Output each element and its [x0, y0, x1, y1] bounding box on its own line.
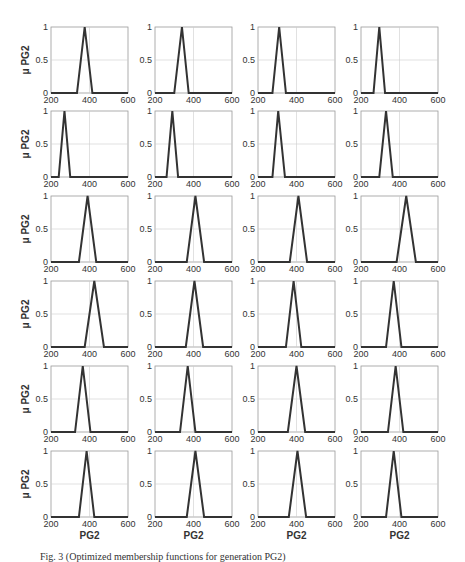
y-tick-label: 0.5: [242, 55, 255, 65]
x-tick-label: 400: [82, 179, 97, 189]
x-tick-label: 600: [120, 349, 135, 359]
y-tick-label: 1: [43, 276, 48, 286]
y-tick-label: 0.5: [345, 139, 358, 149]
figure-caption: Fig. 3 (Optimized membership functions f…: [40, 551, 286, 562]
x-tick-label: 600: [224, 434, 239, 444]
y-tick-label: 0.5: [242, 224, 255, 234]
x-tick-label: 200: [43, 434, 58, 444]
y-tick-label: 1: [43, 191, 48, 201]
y-tick-label: 1: [147, 22, 152, 32]
x-tick-label: 600: [120, 179, 135, 189]
x-tick-label: 600: [430, 179, 445, 189]
x-tick-label: 200: [147, 349, 162, 359]
y-tick-label: 1: [353, 106, 358, 116]
x-tick-label: 400: [82, 264, 97, 274]
x-tick-label: 200: [353, 179, 368, 189]
y-tick-label: 1: [250, 446, 255, 456]
x-tick-label: 600: [224, 95, 239, 105]
x-tick-label: 600: [327, 179, 342, 189]
x-tick-label: 400: [392, 434, 407, 444]
x-tick-label: 400: [82, 434, 97, 444]
subplot-r1c4: 00.51200400600: [345, 22, 445, 105]
x-tick-label: 200: [353, 264, 368, 274]
y-tick-label: 0.5: [139, 139, 152, 149]
subplot-r3c3: 00.51200400600: [242, 191, 342, 274]
y-tick-label: 1: [353, 191, 358, 201]
y-tick-label: 0.5: [139, 394, 152, 404]
x-tick-label: 400: [392, 264, 407, 274]
x-tick-label: 400: [82, 349, 97, 359]
y-tick-label: 1: [353, 446, 358, 456]
y-tick-label: 0.5: [35, 394, 48, 404]
y-axis-label: μ PG2: [20, 384, 31, 413]
y-tick-label: 1: [43, 22, 48, 32]
y-tick-label: 1: [250, 191, 255, 201]
x-tick-label: 200: [147, 264, 162, 274]
subplot-r1c2: 00.51200400600: [139, 22, 239, 105]
x-tick-label: 600: [430, 434, 445, 444]
x-tick-label: 600: [120, 519, 135, 529]
x-tick-label: 400: [186, 434, 201, 444]
x-tick-label: 400: [392, 349, 407, 359]
y-tick-label: 0.5: [139, 479, 152, 489]
subplot-r1c1: 00.51200400600μ PG2: [20, 22, 136, 105]
y-tick-label: 0.5: [345, 479, 358, 489]
subplot-r3c1: 00.51200400600μ PG2: [20, 191, 136, 274]
y-tick-label: 0.5: [345, 309, 358, 319]
y-tick-label: 1: [43, 446, 48, 456]
subplot-r4c2: 00.51200400600: [139, 276, 239, 359]
x-tick-label: 600: [430, 95, 445, 105]
subplot-r4c1: 00.51200400600μ PG2: [20, 276, 136, 359]
x-tick-label: 400: [392, 95, 407, 105]
x-tick-label: 200: [43, 95, 58, 105]
x-tick-label: 200: [250, 179, 265, 189]
subplot-r2c1: 00.51200400600μ PG2: [20, 106, 136, 189]
y-tick-label: 1: [250, 361, 255, 371]
x-tick-label: 600: [430, 264, 445, 274]
x-tick-label: 400: [289, 434, 304, 444]
x-tick-label: 600: [120, 95, 135, 105]
y-tick-label: 0.5: [139, 55, 152, 65]
y-tick-label: 0.5: [35, 224, 48, 234]
x-tick-label: 600: [430, 349, 445, 359]
subplot-r2c4: 00.51200400600: [345, 106, 445, 189]
x-tick-label: 200: [43, 264, 58, 274]
y-tick-label: 1: [250, 22, 255, 32]
y-tick-label: 0.5: [139, 309, 152, 319]
y-tick-label: 1: [43, 361, 48, 371]
y-tick-label: 0.5: [345, 224, 358, 234]
x-tick-label: 600: [327, 95, 342, 105]
x-tick-label: 400: [186, 349, 201, 359]
x-tick-label: 400: [186, 264, 201, 274]
x-tick-label: 600: [327, 349, 342, 359]
subplot-r6c4: 00.51200400600PG2: [345, 446, 445, 541]
x-tick-label: 400: [289, 519, 304, 529]
subplot-r2c2: 00.51200400600: [139, 106, 239, 189]
subplot-r3c2: 00.51200400600: [139, 191, 239, 274]
y-tick-label: 0.5: [35, 139, 48, 149]
y-tick-label: 1: [250, 276, 255, 286]
y-tick-label: 0.5: [242, 394, 255, 404]
y-axis-label: μ PG2: [20, 45, 31, 74]
y-tick-label: 0.5: [35, 55, 48, 65]
x-tick-label: 400: [392, 179, 407, 189]
x-tick-label: 600: [224, 264, 239, 274]
x-tick-label: 600: [327, 264, 342, 274]
y-tick-label: 1: [353, 22, 358, 32]
y-tick-label: 0.5: [242, 309, 255, 319]
subplot-r4c3: 00.51200400600: [242, 276, 342, 359]
subplot-r5c4: 00.51200400600: [345, 361, 445, 444]
subplot-r3c4: 00.51200400600: [345, 191, 445, 274]
subplot-r1c3: 00.51200400600: [242, 22, 342, 105]
y-axis-label: μ PG2: [20, 129, 31, 158]
y-tick-label: 0.5: [35, 479, 48, 489]
x-tick-label: 200: [250, 95, 265, 105]
x-tick-label: 200: [147, 179, 162, 189]
y-tick-label: 0.5: [345, 55, 358, 65]
x-tick-label: 600: [120, 434, 135, 444]
x-tick-label: 200: [147, 434, 162, 444]
x-tick-label: 600: [430, 519, 445, 529]
x-tick-label: 400: [289, 264, 304, 274]
x-axis-label: PG2: [389, 530, 409, 541]
